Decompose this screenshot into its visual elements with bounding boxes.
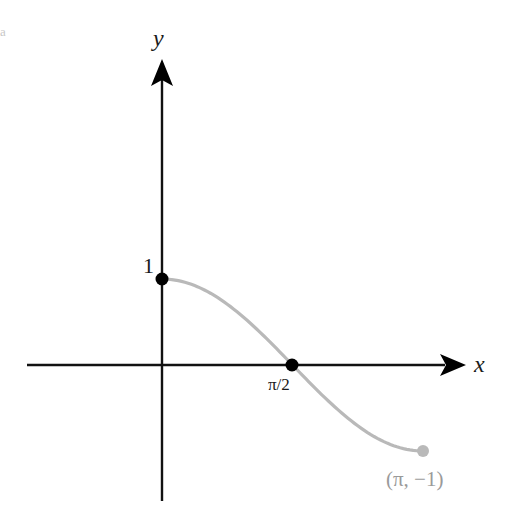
cosine-graph: a x y 1 π/2 (π, −1) — [0, 0, 510, 529]
x-tick-label-half-pi: π/2 — [268, 375, 290, 394]
end-point-label: (π, −1) — [386, 467, 443, 491]
corner-mark: a — [0, 24, 6, 39]
point-x-intercept — [286, 359, 299, 372]
y-axis-label: y — [151, 25, 164, 51]
y-tick-label-one: 1 — [143, 253, 154, 278]
x-axis-label: x — [473, 351, 485, 377]
point-end — [417, 445, 429, 457]
point-y-intercept — [156, 273, 169, 286]
